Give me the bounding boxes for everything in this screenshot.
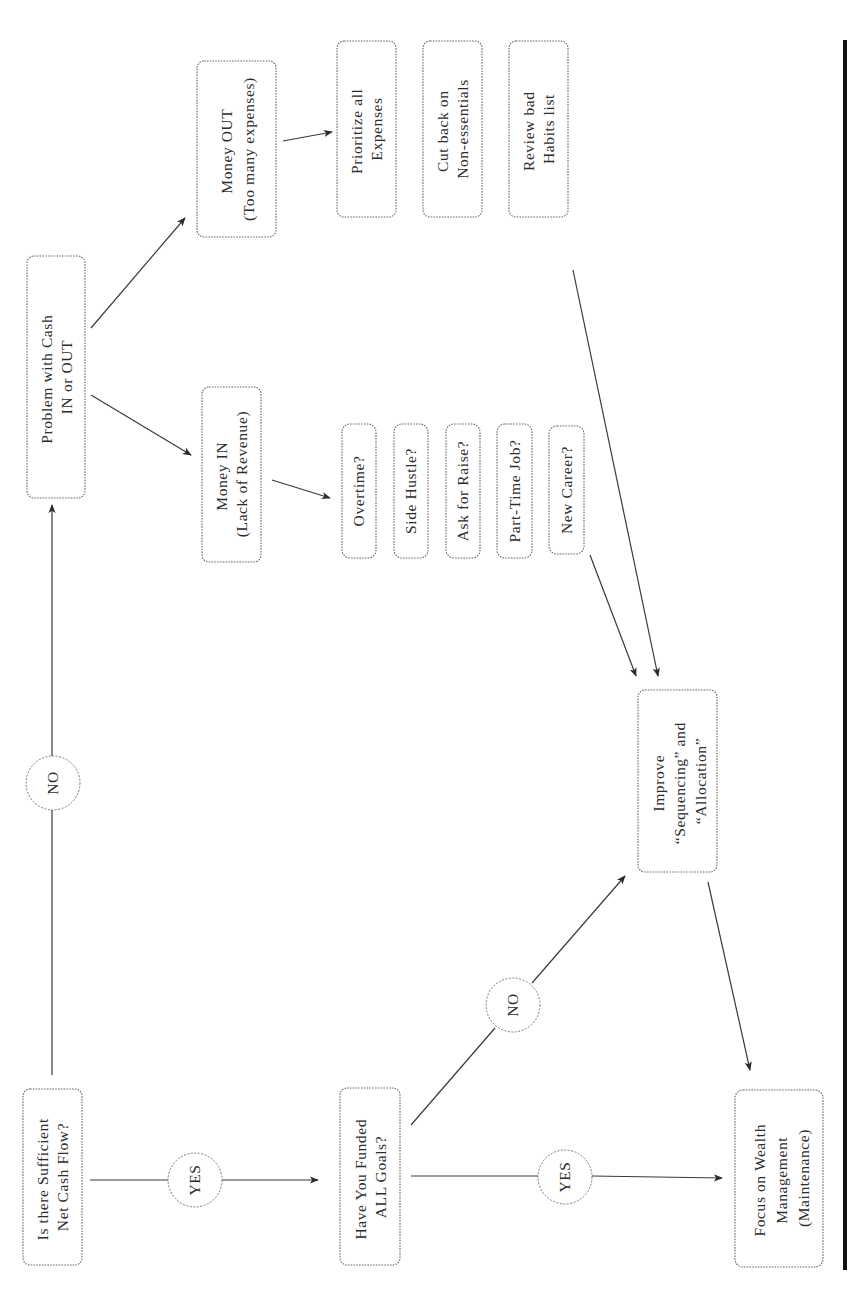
node-part-time: Part-Time Job? [497, 424, 532, 558]
node-cut-back-line-1: Cut back on [434, 90, 451, 172]
node-money-out-line-2: (Too many expenses) [240, 77, 258, 221]
node-focus-line-2: Management [773, 1137, 790, 1224]
edge-problem-moneyin [91, 395, 191, 455]
node-money-in-line-1: Money IN [213, 442, 230, 511]
node-overtime-label: Overtime? [350, 456, 367, 527]
edge-improve-focus [708, 882, 750, 1070]
node-money-out: Money OUT (Too many expenses) [197, 61, 276, 237]
node-funded: Have You Funded ALL Goals? [340, 1088, 400, 1265]
decision-start-yes-label: YES [186, 1165, 203, 1196]
node-cut-back: Cut back on Non-essentials [423, 41, 482, 217]
node-problem: Problem with Cash IN or OUT [27, 256, 85, 498]
node-new-career-label: New Career? [558, 446, 575, 534]
node-funded-line-2: ALL Goals? [372, 1136, 389, 1218]
page-rule [843, 40, 847, 1270]
node-ask-raise: Ask for Raise? [446, 424, 480, 558]
node-new-career: New Career? [549, 426, 584, 554]
node-focus: Focus on Wealth Management (Maintenance) [735, 1090, 823, 1267]
edges [52, 132, 750, 1180]
node-prioritize-line-1: Prioritize all [348, 89, 365, 174]
node-improve-line-3: “Allocation” [692, 738, 709, 824]
decision-funded-yes-label: YES [556, 1162, 573, 1193]
node-start-line-1: Is there Sufficient [34, 1118, 51, 1240]
node-start-line-2: Net Cash Flow? [54, 1123, 71, 1231]
edge-funded-yes-b [592, 1176, 722, 1178]
node-review-line-2: Habits list [540, 94, 557, 164]
decision-funded-no: NO [486, 978, 540, 1032]
node-money-in: Money IN (Lack of Revenue) [202, 387, 261, 562]
node-funded-line-1: Have You Funded [352, 1119, 369, 1240]
node-improve: Improve “Sequencing” and “Allocation” [638, 690, 717, 872]
node-cut-back-line-2: Non-essentials [454, 79, 471, 179]
node-prioritize: Prioritize all Expenses [337, 41, 396, 217]
decision-start-no-label: NO [44, 771, 61, 794]
edge-newcareer-improve [590, 555, 636, 676]
node-side-hustle: Side Hustle? [394, 424, 428, 558]
flowchart-canvas: Is there Sufficient Net Cash Flow? Probl… [0, 0, 860, 1302]
node-improve-line-1: Improve [650, 755, 667, 812]
decision-funded-no-label: NO [504, 993, 521, 1016]
edge-funded-no-a [411, 1028, 495, 1125]
svg-text:Focus on Wealth Manageme: Focus on Wealth Management (Maintenance) [751, 1120, 813, 1237]
node-money-out-line-1: Money OUT [218, 109, 235, 194]
node-review-line-1: Review bad [520, 91, 537, 171]
edge-review-improve [573, 270, 658, 676]
edge-moneyout-prioritize [283, 132, 332, 141]
node-ask-raise-label: Ask for Raise? [454, 441, 471, 542]
node-part-time-label: Part-Time Job? [506, 440, 523, 543]
node-improve-line-2: “Sequencing” and [671, 722, 688, 844]
node-side-hustle-label: Side Hustle? [402, 448, 419, 534]
edge-problem-moneyout [91, 218, 185, 328]
decision-start-no: NO [26, 756, 80, 810]
node-focus-line-3: (Maintenance) [795, 1129, 813, 1227]
node-start: Is there Sufficient Net Cash Flow? [23, 1089, 82, 1265]
node-problem-line-2: IN or OUT [58, 340, 75, 414]
edge-funded-no-b [532, 876, 625, 983]
decision-funded-yes: YES [538, 1150, 592, 1204]
node-problem-line-1: Problem with Cash [38, 315, 55, 444]
node-overtime: Overtime? [342, 424, 376, 558]
node-prioritize-line-2: Expenses [368, 97, 385, 160]
node-money-in-line-2: (Lack of Revenue) [233, 411, 251, 537]
decision-start-yes: YES [168, 1153, 222, 1207]
node-focus-line-1: Focus on Wealth [751, 1124, 768, 1237]
node-review: Review bad Habits list [509, 41, 568, 217]
edge-moneyin-overtime [272, 480, 330, 498]
